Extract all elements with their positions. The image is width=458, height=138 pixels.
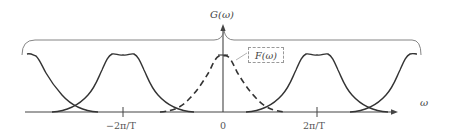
- f-omega-label-box: F(ω): [248, 47, 284, 63]
- tick-label-pos: 2π/T: [303, 121, 325, 131]
- f-label-leader: [236, 53, 247, 60]
- omega-axis: [25, 109, 398, 114]
- replica-neg-1-curve: [52, 54, 194, 112]
- tick-label-neg: −2π/T: [106, 121, 136, 131]
- g-omega-label: G(ω): [210, 10, 234, 20]
- axis-arrow-up-icon: [220, 24, 225, 31]
- replica-neg-2-curve: [27, 54, 98, 112]
- sampled-spectrum-diagram: G(ω) F(ω) ω −2π/T 0 2π/T: [0, 0, 458, 138]
- diagram-canvas: [0, 0, 458, 138]
- tick-label-zero: 0: [220, 121, 226, 131]
- omega-axis-label: ω: [420, 98, 428, 108]
- axis-arrow-icon: [391, 109, 398, 114]
- brace: [22, 31, 421, 55]
